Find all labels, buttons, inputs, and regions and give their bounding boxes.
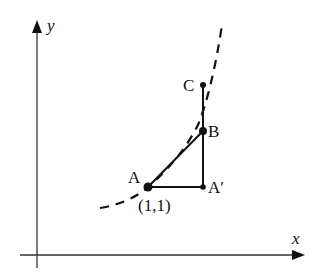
x-axis-arrow-icon	[292, 250, 305, 260]
label-a-prime: A′	[208, 178, 224, 197]
point-a	[144, 183, 153, 192]
point-c	[200, 82, 206, 88]
label-a: A	[128, 168, 141, 187]
y-axis-arrow-icon	[32, 20, 42, 33]
segment-a-b	[148, 131, 203, 187]
label-b: B	[208, 122, 219, 141]
y-axis: y	[32, 16, 55, 268]
label-a-coord: (1,1)	[138, 196, 171, 215]
diagram-canvas: y x A (1,1) A′ B C	[0, 0, 315, 277]
point-a-prime	[200, 184, 206, 190]
label-c: C	[183, 76, 194, 95]
point-b	[199, 127, 207, 135]
x-axis: x	[20, 229, 305, 260]
y-axis-label: y	[45, 16, 55, 35]
x-axis-label: x	[291, 229, 300, 248]
triangle	[148, 85, 203, 187]
